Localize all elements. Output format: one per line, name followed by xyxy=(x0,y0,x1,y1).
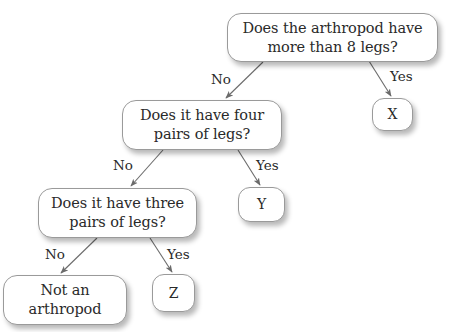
node-leaf-z: Z xyxy=(152,274,195,312)
edge-label-root-no: No xyxy=(211,72,231,87)
node-leaf-y: Y xyxy=(238,187,285,222)
node-text-line: pairs of legs? xyxy=(154,125,251,144)
edge-label-three-no: No xyxy=(45,247,65,262)
node-root-question: Does the arthropod have more than 8 legs… xyxy=(227,13,438,62)
arrow-root-yes xyxy=(369,61,391,96)
node-text: X xyxy=(388,105,398,124)
arrow-root-no xyxy=(226,62,263,98)
node-four-pairs-question: Does it have four pairs of legs? xyxy=(122,100,282,150)
node-text: Y xyxy=(257,195,266,214)
node-text-line: Not an xyxy=(40,281,89,300)
edge-label-four-no: No xyxy=(113,158,133,173)
node-text-line: Does it have three xyxy=(51,194,184,213)
arrow-four-no xyxy=(131,150,163,186)
node-text-line: Does the arthropod have xyxy=(242,19,422,38)
node-text-line: Does it have four xyxy=(140,106,264,125)
node-text: Z xyxy=(169,284,179,303)
node-text-line: arthropod xyxy=(29,300,102,319)
node-leaf-x: X xyxy=(372,98,413,131)
node-text-line: pairs of legs? xyxy=(69,213,166,232)
node-three-pairs-question: Does it have three pairs of legs? xyxy=(38,188,197,238)
edge-label-four-yes: Yes xyxy=(256,158,279,173)
edge-label-root-yes: Yes xyxy=(390,69,413,84)
node-text-line: more than 8 legs? xyxy=(267,38,397,57)
decision-tree-diagram: Does the arthropod have more than 8 legs… xyxy=(0,0,451,332)
edge-label-three-yes: Yes xyxy=(167,247,190,262)
node-leaf-not-arthropod: Not an arthropod xyxy=(3,275,127,325)
arrow-three-no xyxy=(61,238,97,273)
